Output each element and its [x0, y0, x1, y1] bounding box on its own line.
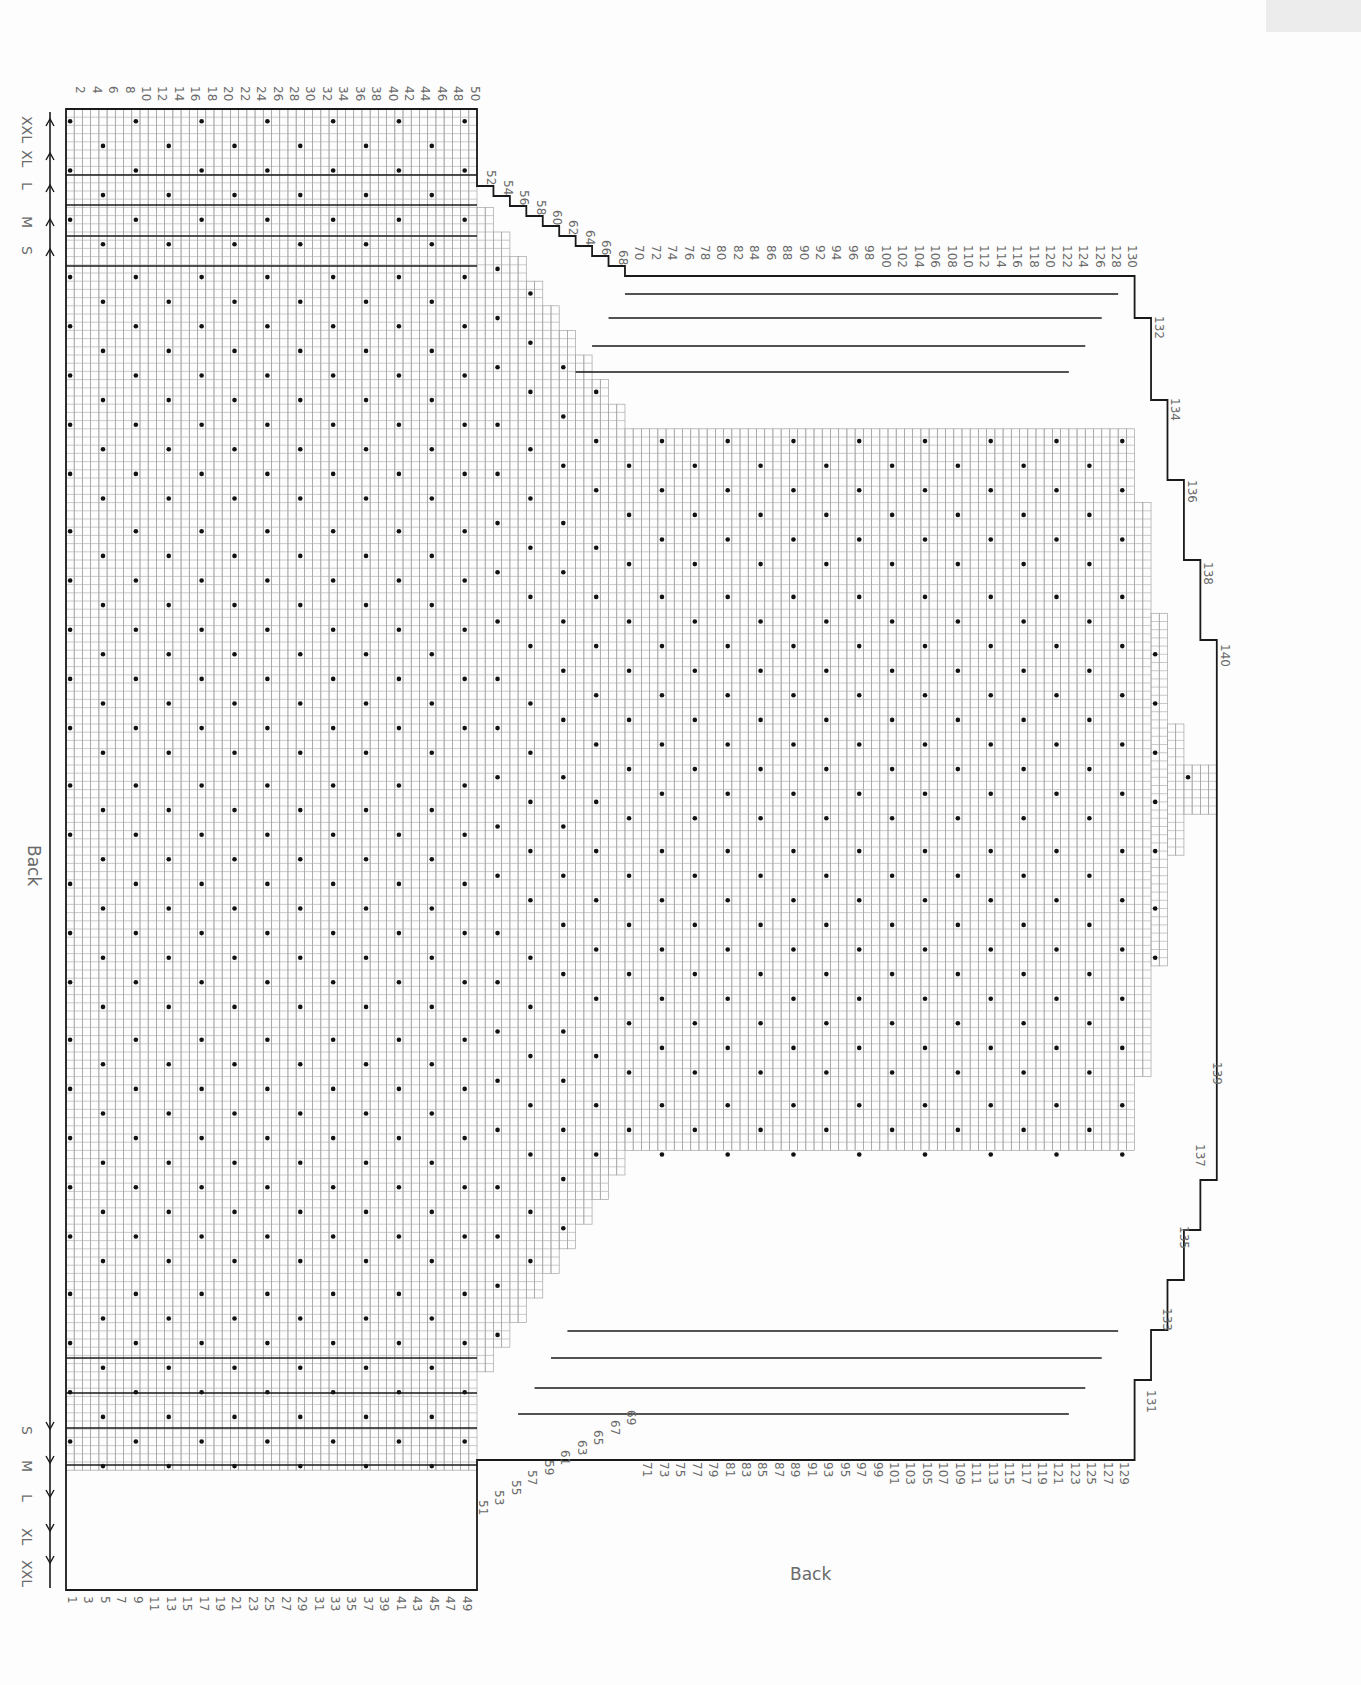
svg-text:114: 114: [994, 245, 1008, 268]
svg-text:111: 111: [969, 1462, 983, 1485]
svg-text:132: 132: [1152, 316, 1166, 339]
svg-text:110: 110: [961, 245, 975, 268]
svg-text:9: 9: [131, 1596, 145, 1604]
svg-text:M: M: [19, 1460, 35, 1472]
svg-text:128: 128: [1109, 245, 1123, 268]
svg-text:12: 12: [155, 86, 169, 101]
svg-text:32: 32: [320, 86, 334, 101]
bottom-title-back: Back: [790, 1564, 831, 1584]
svg-text:62: 62: [566, 220, 580, 235]
svg-text:134: 134: [1168, 398, 1182, 421]
svg-text:106: 106: [928, 245, 942, 268]
svg-text:120: 120: [1043, 245, 1057, 268]
svg-text:101: 101: [887, 1462, 901, 1485]
chart-grid: [66, 109, 1217, 1470]
svg-text:37: 37: [361, 1596, 375, 1611]
svg-text:13: 13: [164, 1596, 178, 1611]
svg-text:19: 19: [213, 1596, 227, 1611]
svg-text:52: 52: [484, 170, 498, 185]
svg-text:89: 89: [788, 1462, 802, 1477]
svg-text:4: 4: [90, 86, 104, 94]
svg-text:109: 109: [953, 1462, 967, 1485]
svg-text:81: 81: [723, 1462, 737, 1477]
svg-text:29: 29: [295, 1596, 309, 1611]
svg-text:137: 137: [1193, 1144, 1207, 1167]
svg-text:41: 41: [394, 1596, 408, 1611]
svg-text:33: 33: [328, 1596, 342, 1611]
svg-text:35: 35: [344, 1596, 358, 1611]
svg-text:125: 125: [1084, 1462, 1098, 1485]
svg-text:S: S: [19, 246, 35, 255]
svg-text:XXL: XXL: [19, 1560, 35, 1587]
svg-text:38: 38: [369, 86, 383, 101]
svg-text:71: 71: [640, 1462, 654, 1477]
svg-text:14: 14: [172, 86, 186, 101]
svg-text:57: 57: [525, 1470, 539, 1485]
svg-text:XXL: XXL: [19, 116, 35, 143]
svg-text:68: 68: [616, 250, 630, 265]
svg-text:11: 11: [147, 1596, 161, 1611]
svg-text:7: 7: [114, 1596, 128, 1604]
svg-text:46: 46: [435, 86, 449, 101]
svg-text:S: S: [19, 1426, 35, 1435]
svg-text:22: 22: [238, 86, 252, 101]
svg-text:61: 61: [558, 1450, 572, 1465]
svg-text:133: 133: [1160, 1308, 1174, 1331]
svg-text:XL: XL: [19, 150, 35, 168]
svg-text:117: 117: [1019, 1462, 1033, 1485]
svg-text:138: 138: [1201, 562, 1215, 585]
svg-text:42: 42: [402, 86, 416, 101]
svg-text:64: 64: [583, 230, 597, 245]
svg-text:96: 96: [846, 245, 860, 260]
svg-text:25: 25: [262, 1596, 276, 1611]
svg-text:50: 50: [468, 86, 482, 101]
svg-text:L: L: [19, 182, 35, 190]
svg-text:59: 59: [542, 1460, 556, 1475]
svg-text:56: 56: [517, 190, 531, 205]
svg-text:2: 2: [73, 86, 87, 94]
svg-text:43: 43: [410, 1596, 424, 1611]
svg-text:47: 47: [443, 1596, 457, 1611]
svg-text:44: 44: [418, 86, 432, 101]
svg-text:1: 1: [65, 1596, 79, 1604]
svg-text:88: 88: [780, 245, 794, 260]
svg-text:49: 49: [460, 1596, 474, 1611]
svg-text:58: 58: [534, 200, 548, 215]
svg-text:23: 23: [246, 1596, 260, 1611]
svg-text:95: 95: [838, 1462, 852, 1477]
svg-text:87: 87: [772, 1462, 786, 1477]
svg-text:48: 48: [451, 86, 465, 101]
svg-text:83: 83: [739, 1462, 753, 1477]
svg-text:98: 98: [862, 245, 876, 260]
svg-text:72: 72: [649, 245, 663, 260]
svg-text:70: 70: [632, 245, 646, 260]
svg-text:L: L: [19, 1494, 35, 1502]
svg-text:5: 5: [98, 1596, 112, 1604]
svg-text:129: 129: [1117, 1462, 1131, 1485]
svg-text:112: 112: [977, 245, 991, 268]
svg-text:136: 136: [1185, 480, 1199, 503]
svg-text:39: 39: [377, 1596, 391, 1611]
svg-text:97: 97: [854, 1462, 868, 1477]
knitting-chart: 2468101214161820222426283032343638404244…: [0, 0, 1361, 1685]
svg-text:15: 15: [180, 1596, 194, 1611]
svg-text:65: 65: [591, 1430, 605, 1445]
svg-text:76: 76: [682, 245, 696, 260]
svg-text:105: 105: [920, 1462, 934, 1485]
svg-text:45: 45: [427, 1596, 441, 1611]
svg-text:21: 21: [229, 1596, 243, 1611]
svg-text:135: 135: [1177, 1226, 1191, 1249]
svg-text:85: 85: [755, 1462, 769, 1477]
svg-text:121: 121: [1051, 1462, 1065, 1485]
svg-text:63: 63: [575, 1440, 589, 1455]
svg-text:78: 78: [698, 245, 712, 260]
svg-text:140: 140: [1218, 644, 1232, 667]
svg-text:94: 94: [829, 245, 843, 260]
svg-text:115: 115: [1002, 1462, 1016, 1485]
svg-text:84: 84: [747, 245, 761, 260]
svg-text:28: 28: [287, 86, 301, 101]
svg-text:53: 53: [492, 1490, 506, 1505]
svg-text:124: 124: [1076, 245, 1090, 268]
svg-text:30: 30: [303, 86, 317, 101]
svg-text:54: 54: [501, 180, 515, 195]
